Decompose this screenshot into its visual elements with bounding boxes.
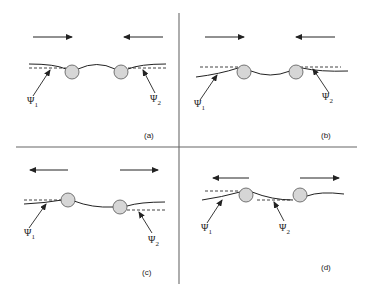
psi2-pointer-arrow-icon xyxy=(143,70,155,93)
panel-a: Ψ1 Ψ2 (a) xyxy=(27,37,166,140)
psi1-pointer-arrow-icon xyxy=(33,70,50,96)
psi2-label: Ψ2 xyxy=(150,93,161,107)
particle-1 xyxy=(61,193,75,207)
particle-1 xyxy=(237,65,251,79)
psi2-pointer-arrow-icon xyxy=(139,212,152,233)
psi2-label: Ψ2 xyxy=(322,91,333,105)
diagram-figure: Ψ1 Ψ2 (a) Ψ1 Ψ2 (b) Ψ1 Ψ2 (c) xyxy=(0,0,373,297)
psi1-label: Ψ1 xyxy=(27,95,38,109)
panel-label-a: (a) xyxy=(144,131,154,140)
psi1-label: Ψ1 xyxy=(194,98,205,112)
particle-2 xyxy=(289,65,303,79)
particle-2 xyxy=(114,65,128,79)
psi1-pointer-arrow-icon xyxy=(29,204,46,228)
psi1-label: Ψ1 xyxy=(201,222,212,236)
panel-label-d: (d) xyxy=(321,263,331,272)
particle-2 xyxy=(113,200,127,214)
psi2-pointer-arrow-icon xyxy=(274,202,284,221)
panel-label-b: (b) xyxy=(321,131,331,140)
psi2-label: Ψ2 xyxy=(148,234,159,248)
psi2-pointer-arrow-icon xyxy=(313,69,329,93)
panel-label-c: (c) xyxy=(142,268,152,277)
psi2-label: Ψ2 xyxy=(279,222,290,236)
panel-d: Ψ1 Ψ2 (d) xyxy=(201,178,344,272)
meniscus-curve xyxy=(202,192,344,200)
particle-2 xyxy=(293,188,307,202)
meniscus-curve xyxy=(196,68,348,77)
meniscus-curve xyxy=(24,200,165,207)
panel-c: Ψ1 Ψ2 (c) xyxy=(24,170,165,277)
psi1-pointer-arrow-icon xyxy=(200,75,217,100)
psi1-pointer-arrow-icon xyxy=(207,200,222,223)
psi1-label: Ψ1 xyxy=(24,227,35,241)
panel-b: Ψ1 Ψ2 (b) xyxy=(194,37,348,140)
particle-1 xyxy=(65,65,79,79)
particle-1 xyxy=(239,188,253,202)
